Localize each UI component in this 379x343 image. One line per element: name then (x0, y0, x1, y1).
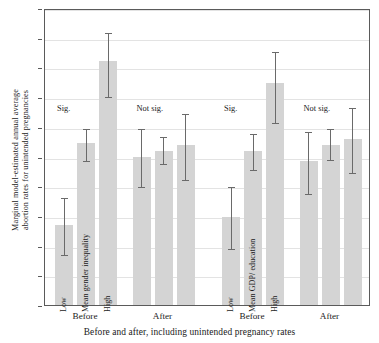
bar-category-label: Low (226, 297, 235, 312)
bar-category-label: Mean GDP/ education (248, 239, 257, 312)
error-bar-cap-upper (160, 137, 167, 138)
y-tick-mark (38, 306, 42, 307)
error-bar-cap-lower (305, 194, 312, 195)
error-bar (231, 187, 232, 249)
error-bar (275, 52, 276, 123)
error-bar-cap-lower (105, 97, 112, 98)
significance-annotation: Sig. (224, 104, 237, 113)
group-label: Before (209, 311, 295, 321)
error-bar (64, 198, 65, 254)
error-bar-cap-upper (105, 33, 112, 34)
error-bar-cap-upper (83, 129, 90, 130)
gridline (45, 129, 369, 130)
y-tick-mark (38, 276, 42, 277)
error-bar-cap-lower (228, 249, 235, 250)
bar-category-label: High (103, 296, 112, 312)
y-axis-label-line-2: abortion rates for unintended pregnancie… (21, 35, 31, 285)
gridline (45, 69, 369, 70)
error-bar-cap-upper (327, 129, 334, 130)
gridline (45, 40, 369, 41)
y-tick-mark (38, 68, 42, 69)
error-bar (86, 129, 87, 162)
error-bar (163, 137, 164, 164)
error-bar-cap-upper (138, 129, 145, 130)
plot-area: LowMean gender inequalityHighSig.Not sig… (44, 9, 370, 306)
y-tick-mark (38, 217, 42, 218)
error-bar-cap-lower (182, 180, 189, 181)
bar-category-label: Mean gender inequality (81, 234, 90, 312)
y-tick-mark (38, 187, 42, 188)
error-bar-cap-lower (138, 187, 145, 188)
y-tick-mark (38, 98, 42, 99)
error-bar (330, 129, 331, 160)
error-bar-cap-lower (83, 161, 90, 162)
error-bar (108, 33, 109, 97)
error-bar-cap-upper (272, 52, 279, 53)
x-axis-label: Before and after, including unintended p… (0, 327, 379, 337)
error-bar-cap-lower (327, 160, 334, 161)
y-tick-mark (38, 9, 42, 10)
y-tick-mark (38, 39, 42, 40)
group-label: Before (42, 311, 128, 321)
y-tick-mark (38, 128, 42, 129)
bar (99, 61, 117, 305)
error-bar-cap-lower (61, 255, 68, 256)
error-bar-cap-lower (272, 123, 279, 124)
y-axis-label: Marginal model-estimated annual average … (11, 35, 31, 285)
significance-annotation: Sig. (57, 104, 70, 113)
error-bar-cap-lower (160, 164, 167, 165)
bar (322, 145, 340, 305)
significance-annotation: Not sig. (304, 104, 331, 113)
group-label: After (120, 311, 206, 321)
error-bar-cap-upper (305, 132, 312, 133)
error-bar-cap-upper (61, 198, 68, 199)
y-tick-mark (38, 247, 42, 248)
error-bar-cap-upper (182, 114, 189, 115)
error-bar-cap-upper (250, 134, 257, 135)
error-bar (185, 114, 186, 180)
error-bar-cap-upper (228, 187, 235, 188)
bar-category-label: High (270, 296, 279, 312)
gridline (45, 10, 369, 11)
error-bar-cap-lower (250, 170, 257, 171)
figure: Marginal model-estimated annual average … (0, 0, 379, 343)
error-bar (308, 132, 309, 194)
error-bar-cap-upper (349, 108, 356, 109)
y-axis-label-line-1: Marginal model-estimated annual average (11, 35, 21, 285)
gridline (45, 99, 369, 100)
error-bar-cap-lower (349, 173, 356, 174)
group-label: After (287, 311, 373, 321)
error-bar (352, 108, 353, 173)
bar (155, 151, 173, 305)
significance-annotation: Not sig. (137, 104, 164, 113)
error-bar (253, 134, 254, 171)
bar-category-label: Low (59, 297, 68, 312)
y-tick-mark (38, 158, 42, 159)
error-bar (141, 129, 142, 187)
